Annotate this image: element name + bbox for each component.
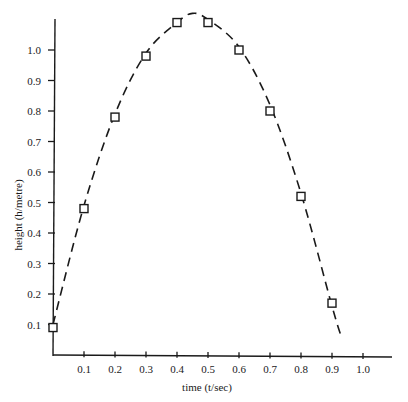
x-axis: 0.10.20.30.40.50.60.70.80.91.0 time (t/s… bbox=[53, 351, 392, 394]
y-ticks: 0.10.20.30.40.50.60.70.80.91.0 bbox=[27, 44, 55, 331]
x-tick-label: 0.5 bbox=[201, 363, 215, 375]
x-tick-label: 0.3 bbox=[139, 363, 153, 375]
x-tick-label: 0.8 bbox=[294, 363, 308, 375]
data-point-marker bbox=[173, 19, 181, 27]
y-tick-label: 0.4 bbox=[27, 227, 41, 239]
data-point-marker bbox=[266, 107, 274, 115]
y-axis-line bbox=[53, 19, 55, 356]
data-point-marker bbox=[49, 324, 57, 332]
x-tick-label: 1.0 bbox=[356, 363, 370, 375]
y-tick-label: 0.6 bbox=[27, 166, 41, 178]
x-tick-label: 0.9 bbox=[325, 363, 339, 375]
x-tick-label: 0.7 bbox=[263, 363, 277, 375]
x-axis-line bbox=[53, 355, 392, 357]
y-tick-label: 1.0 bbox=[27, 44, 41, 56]
data-point-marker bbox=[111, 113, 119, 121]
fitted-curve bbox=[53, 13, 341, 336]
data-markers bbox=[49, 19, 336, 332]
y-tick-label: 0.1 bbox=[27, 319, 41, 331]
x-tick-label: 0.4 bbox=[170, 363, 184, 375]
chart: 0.10.20.30.40.50.60.70.80.91.0 height (h… bbox=[0, 0, 408, 402]
data-point-marker bbox=[235, 46, 243, 54]
data-point-marker bbox=[328, 299, 336, 307]
y-axis: 0.10.20.30.40.50.60.70.80.91.0 height (h… bbox=[12, 19, 55, 356]
y-tick-label: 0.2 bbox=[27, 288, 41, 300]
x-tick-label: 0.1 bbox=[77, 363, 91, 375]
y-tick-label: 0.5 bbox=[27, 197, 41, 209]
data-point-marker bbox=[80, 205, 88, 213]
y-tick-label: 0.3 bbox=[27, 258, 41, 270]
x-axis-title: time (t/sec) bbox=[182, 381, 232, 394]
data-point-marker bbox=[297, 192, 305, 200]
y-tick-label: 0.8 bbox=[27, 105, 41, 117]
y-tick-label: 0.9 bbox=[27, 75, 41, 87]
y-tick-label: 0.7 bbox=[27, 136, 41, 148]
data-point-marker bbox=[142, 52, 150, 60]
x-tick-label: 0.6 bbox=[232, 363, 246, 375]
x-tick-label: 0.2 bbox=[108, 363, 122, 375]
data-point-marker bbox=[204, 19, 212, 27]
y-axis-title: height (h/metre) bbox=[12, 179, 25, 251]
